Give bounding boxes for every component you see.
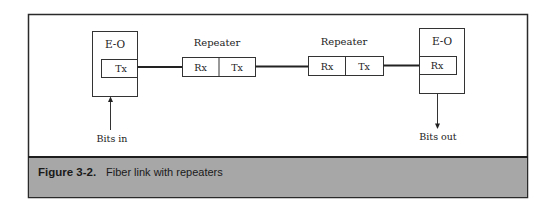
repeater-1-label: Repeater [194, 37, 241, 48]
receiver-rx-label: Rx [431, 60, 444, 71]
figure-fiber-link: Figure 3-2. Fiber link with repeaters E-… [0, 0, 552, 211]
repeater-2-rx-label: Rx [321, 61, 334, 72]
caption-number: Figure 3-2. [38, 166, 96, 178]
repeater-1-rx-label: Rx [194, 62, 207, 73]
repeater-1-tx-label: Tx [231, 62, 243, 73]
bits-out-label: Bits out [419, 131, 457, 142]
repeater-2-tx-label: Tx [358, 61, 370, 72]
receiver-eo: E-O Rx [420, 29, 465, 94]
transmitter-tx-label: Tx [115, 63, 127, 74]
repeater-2-label: Repeater [321, 36, 368, 47]
caption-text: Fiber link with repeaters [106, 166, 223, 178]
bits-in-label: Bits in [97, 133, 128, 144]
transmitter-eo: E-O Tx [93, 32, 138, 97]
receiver-label: E-O [432, 35, 452, 47]
caption-bar [29, 157, 527, 197]
transmitter-label: E-O [105, 38, 125, 50]
